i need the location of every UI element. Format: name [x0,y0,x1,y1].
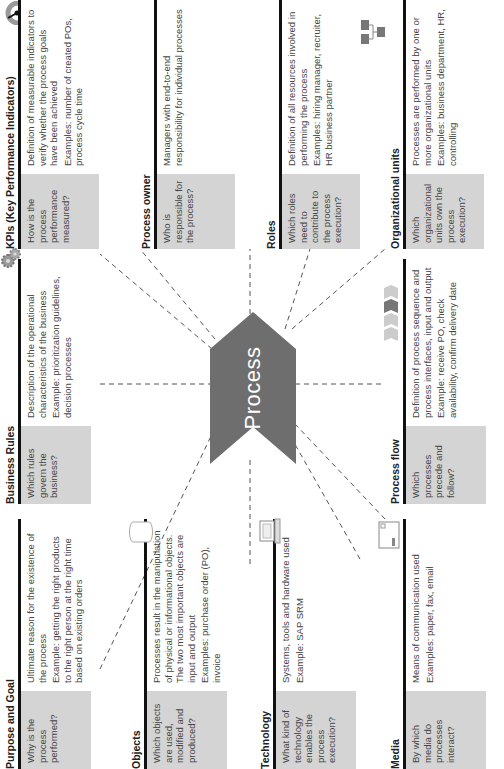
desc-line: Example: SAP SRM [294,537,306,683]
desc-line: Definition of process sequence and proce… [410,267,433,418]
card-question: How is the process performance measured? [21,174,99,249]
desc-line: Definition of measurable indicators to v… [25,8,60,166]
card-technology: Technology What kind of technology enabl… [257,519,356,769]
computer-icon [258,518,286,544]
desc-line: Managers with end-to-end responsibility … [161,8,184,166]
card-description: Ultimate reason for the existence of the… [21,519,91,691]
card-description: Systems, tools and hardware used Example… [276,529,356,691]
gauge-icon [0,1,24,25]
card-description: Definition of measurable indicators to v… [21,0,99,174]
desc-line: Example: getting the right products to t… [50,527,85,683]
org-chart-icon [360,19,390,45]
desc-line: Description of the operational character… [25,267,48,418]
card-description: Means of communication used Examples: pa… [406,546,486,691]
card-body: By which media do processes interact? Me… [403,519,486,769]
card-objects: Objects Which objects are used, modified… [128,519,228,769]
card-body: Which organizational units own the proce… [403,0,484,249]
card-question: Which processes precede and follow? [406,426,486,504]
card-business-rules: Business Rules Which rules govern the bu… [2,259,91,504]
card-description: Processes result in the manipulation of … [147,519,228,691]
document-icon [378,521,404,549]
card-title: Media [387,519,403,769]
card-purpose-and-goal: Purpose and Goal Why is the process perf… [2,519,91,769]
card-description: Managers with end-to-end responsibility … [157,0,235,174]
card-media: Media By which media do processes intera… [387,519,486,769]
desc-line: Example: receive PO, check availability,… [435,267,458,418]
desc-line: Examples: business department, HR, contr… [435,8,458,166]
card-question: Who is responsible for the process? [157,174,235,249]
desc-line: Means of communication used [410,554,422,683]
card-body: What kind of technology enables the proc… [273,519,356,769]
process-diagram: Process Purpose and Goal Why is the proc… [0,0,504,769]
desc-line: Example: prioritization guidelines, deci… [50,267,73,418]
process-steps-icon [383,283,403,341]
card-description: Definition of process sequence and proce… [406,259,486,426]
gears-icon [0,247,26,269]
card-body: Which rules govern the business? Descrip… [18,259,91,504]
cylinder-icon [128,520,158,544]
card-body: Who is responsible for the process? Mana… [154,0,235,249]
desc-line: Definition of all resources involved in … [286,8,309,166]
desc-line: Ultimate reason for the existence of the… [25,527,48,683]
card-description: Definition of all resources involved in … [282,0,360,174]
card-body: Which processes precede and follow? Defi… [403,259,486,504]
card-process-owner: Process owner Who is responsible for the… [138,0,235,249]
card-question: Which roles need to contribute to the pr… [282,174,360,249]
desc-line: Processes are performed by one or more o… [410,8,433,166]
card-title: Purpose and Goal [2,519,18,769]
desc-line: Examples: purchase order (PO), invoice [199,527,222,683]
card-question: Which objects are used, modified and pro… [147,691,227,769]
process-chevron: Process [210,312,296,464]
process-label: Process [210,312,296,464]
card-question: Why is the process performed? [21,691,91,769]
desc-line: Systems, tools and hardware used [280,537,292,683]
card-body: How is the process performance measured?… [18,0,99,249]
card-title: Technology [257,519,273,769]
desc-line: Processes result in the manipulation of … [151,527,197,683]
desc-line: Examples: hiring manager, recruiter, HR … [311,8,334,166]
card-roles: Roles Which roles need to contribute to … [263,0,360,249]
card-question: What kind of technology enables the proc… [276,691,356,769]
card-title: Objects [128,519,144,769]
card-body: Why is the process performed? Ultimate r… [18,519,91,769]
card-question: Which rules govern the business? [21,426,91,504]
card-description: Processes are performed by one or more o… [406,0,484,174]
card-title: Business Rules [2,259,18,504]
card-kpis: KPIs (Key Performance Indicators) How is… [2,0,99,249]
card-body: Which roles need to contribute to the pr… [279,0,360,249]
card-title: Process owner [138,0,154,249]
card-description: Description of the operational character… [21,259,91,426]
card-title: Roles [263,0,279,249]
desc-line: Examples: paper, fax, email [424,554,436,683]
card-question: Which organizational units own the proce… [406,174,484,249]
card-organizational-units: Organizational units Which organizationa… [387,0,484,249]
desc-line: Examples: number of created POs, process… [62,8,85,166]
card-title: KPIs (Key Performance Indicators) [2,0,18,249]
card-question: By which media do processes interact? [406,691,486,769]
card-body: Which objects are used, modified and pro… [144,519,228,769]
